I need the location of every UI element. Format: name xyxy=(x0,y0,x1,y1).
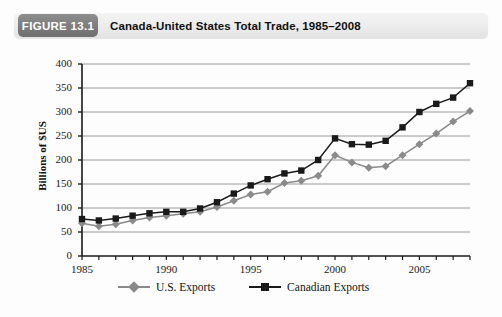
diamond-marker-icon xyxy=(466,107,474,115)
square-marker-icon xyxy=(249,281,281,293)
diamond-marker-icon xyxy=(264,188,272,196)
x-axis-tick-label: 1990 xyxy=(146,264,186,275)
legend-label-canadian-exports: Canadian Exports xyxy=(287,281,369,293)
square-marker-icon xyxy=(467,80,473,86)
diamond-marker-icon xyxy=(230,197,238,205)
diamond-marker-icon xyxy=(297,177,305,185)
diamond-marker-icon xyxy=(247,191,255,199)
diamond-marker-icon xyxy=(399,151,407,159)
square-marker-icon xyxy=(214,199,220,205)
y-axis-tick-label: 0 xyxy=(38,250,72,261)
square-marker-icon xyxy=(315,157,321,163)
y-axis-tick-label: 350 xyxy=(38,82,72,93)
square-marker-icon xyxy=(450,94,456,100)
y-axis-title: Billions of $US xyxy=(36,96,48,216)
diamond-marker-icon xyxy=(382,162,390,170)
square-marker-icon xyxy=(332,135,338,141)
x-axis-tick-label: 1995 xyxy=(231,264,271,275)
legend-item-canadian-exports: Canadian Exports xyxy=(249,281,369,293)
diamond-marker-icon xyxy=(365,164,373,172)
figure-container: FIGURE 13.1 Canada-United States Total T… xyxy=(0,0,502,317)
square-marker-icon xyxy=(197,205,203,211)
legend-item-us-exports: U.S. Exports xyxy=(118,281,215,293)
chart-plot-area: 050100150200250300350400 198519901995200… xyxy=(0,0,502,317)
square-marker-icon xyxy=(281,170,287,176)
square-marker-icon xyxy=(433,101,439,107)
y-axis-tick-label: 50 xyxy=(38,226,72,237)
diamond-marker-icon xyxy=(118,281,150,293)
x-axis-tick-label: 1985 xyxy=(62,264,102,275)
series-line-canadian-exports xyxy=(82,83,470,220)
series-line-u-s-exports xyxy=(82,111,470,226)
square-marker-icon xyxy=(231,190,237,196)
square-marker-icon xyxy=(146,210,152,216)
square-marker-icon xyxy=(79,216,85,222)
y-axis-tick-label: 400 xyxy=(38,58,72,69)
square-marker-icon xyxy=(180,209,186,215)
chart-legend: U.S. Exports Canadian Exports xyxy=(118,281,369,293)
square-marker-icon xyxy=(399,124,405,130)
square-marker-icon xyxy=(298,167,304,173)
square-marker-icon xyxy=(382,138,388,144)
gridlines xyxy=(82,64,470,232)
legend-label-us-exports: U.S. Exports xyxy=(156,281,215,293)
diamond-marker-icon xyxy=(415,140,423,148)
square-marker-icon xyxy=(113,215,119,221)
square-marker-icon xyxy=(366,141,372,147)
diamond-marker-icon xyxy=(280,179,288,187)
square-marker-icon xyxy=(247,182,253,188)
x-axis-tick-label: 2000 xyxy=(315,264,355,275)
square-marker-icon xyxy=(416,109,422,115)
x-axis-tick-label: 2005 xyxy=(399,264,439,275)
square-marker-icon xyxy=(129,212,135,218)
square-marker-icon xyxy=(264,176,270,182)
square-marker-icon xyxy=(96,217,102,223)
square-marker-icon xyxy=(349,141,355,147)
square-marker-icon xyxy=(163,209,169,215)
